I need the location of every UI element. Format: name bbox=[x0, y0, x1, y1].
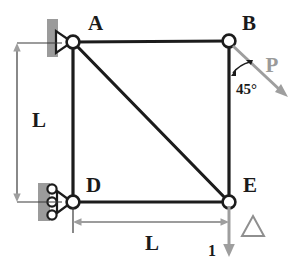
unit-load-label: 1 bbox=[208, 242, 216, 259]
joint-A bbox=[67, 36, 80, 49]
roller-circle-top bbox=[47, 184, 56, 193]
joint-label-D: D bbox=[86, 173, 101, 197]
angle-arc-arrowhead-left bbox=[231, 69, 236, 76]
angle-label-45: 45° bbox=[236, 81, 257, 97]
joint-label-A: A bbox=[88, 11, 104, 35]
dimension-label-horizontal: L bbox=[145, 231, 159, 255]
truss-diagram-figure: A B D E L L P 45° 1 Δ Plane bbox=[0, 0, 304, 263]
member-AB bbox=[73, 41, 229, 42]
dim-arrow-down bbox=[13, 194, 20, 203]
load-P-label: P bbox=[266, 53, 279, 77]
joint-D bbox=[67, 196, 80, 209]
joint-label-B: B bbox=[242, 11, 256, 35]
joint-label-E: E bbox=[243, 173, 257, 197]
roller-circle-bottom bbox=[47, 210, 56, 219]
unit-load-arrowhead bbox=[223, 244, 235, 257]
truss-diagram-svg: A B D E L L P 45° 1 Δ Plane bbox=[0, 0, 304, 263]
dim-arrow-left bbox=[73, 218, 82, 225]
deflection-delta-symbol bbox=[242, 216, 264, 236]
joint-B bbox=[223, 35, 236, 48]
dim-arrow-up bbox=[13, 43, 20, 52]
dimension-label-vertical: L bbox=[32, 108, 46, 132]
